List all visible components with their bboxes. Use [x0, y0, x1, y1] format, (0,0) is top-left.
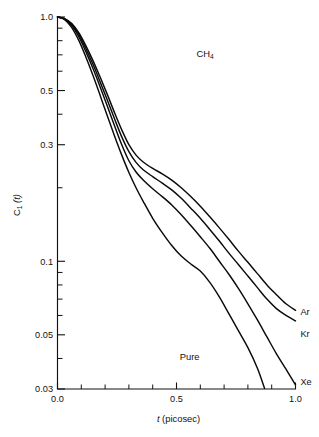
x-tick-label: 0.5: [170, 394, 183, 404]
y-tick-label: 0.05: [35, 330, 53, 340]
x-axis-title: t (picosec): [157, 413, 200, 424]
curve-label-ar: Ar: [300, 307, 309, 317]
y-tick-label: 0.3: [40, 140, 53, 150]
figure-page: 1.00.50.30.10.050.030.00.51.0ArKrXePureC…: [0, 0, 319, 437]
curve-label-kr: Kr: [300, 329, 309, 339]
y-tick-label: 0.03: [35, 384, 53, 394]
y-axis-title: C1 (t): [11, 194, 23, 216]
curve-pure: [58, 17, 265, 388]
axis-spines: [58, 17, 296, 389]
x-tick-label: 0.0: [51, 394, 64, 404]
log-decay-chart: 1.00.50.30.10.050.030.00.51.0ArKrXePureC…: [0, 0, 319, 437]
y-tick-label: 0.1: [40, 257, 53, 267]
annotation-ch4: CH4: [196, 48, 214, 60]
curve-label-xe: Xe: [300, 377, 311, 387]
y-tick-label: 1.0: [40, 12, 53, 22]
x-tick-label: 1.0: [289, 394, 302, 404]
curve-label-pure: Pure: [180, 351, 200, 362]
y-tick-label: 0.5: [40, 86, 53, 96]
curve-xe: [58, 17, 296, 385]
curve-ar: [58, 17, 296, 310]
